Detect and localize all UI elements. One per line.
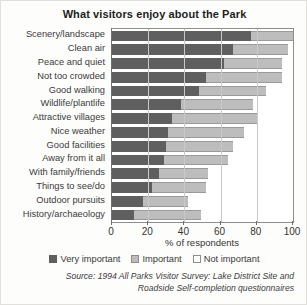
bar-segment-very bbox=[112, 99, 181, 110]
bar-segment-very bbox=[112, 86, 199, 97]
category-label: Things to see/do bbox=[36, 181, 105, 191]
source-line-2: Roadside Self-completion questionnaires bbox=[1, 282, 294, 294]
bar-row bbox=[112, 182, 293, 193]
bar-segment-not bbox=[244, 127, 293, 138]
y-axis-category-labels: Scenery/landscapeClean airPeace and quie… bbox=[1, 28, 108, 221]
chart-figure: What visitors enjoy about the Park Scene… bbox=[0, 0, 307, 305]
plot-area bbox=[111, 28, 294, 223]
legend-item[interactable]: Important bbox=[131, 254, 181, 264]
bar-segment-imp bbox=[164, 155, 227, 166]
bar-row bbox=[112, 86, 293, 97]
gridline bbox=[184, 29, 185, 222]
bar-row bbox=[112, 155, 293, 166]
bar-segment-imp bbox=[143, 196, 188, 207]
source-line-1: Source: 1994 All Parks Visitor Survey: L… bbox=[1, 270, 294, 282]
legend-label: Very important bbox=[60, 254, 120, 264]
bar-segment-not bbox=[257, 113, 293, 124]
x-axis-label: % of respondents bbox=[111, 237, 293, 248]
bar-row bbox=[112, 127, 293, 138]
bar-segment-very bbox=[112, 31, 251, 42]
category-label: Wildlife/plantlife bbox=[40, 98, 105, 108]
bar-row bbox=[112, 58, 293, 69]
category-label: Clean air bbox=[68, 43, 105, 53]
legend-item[interactable]: Very important bbox=[49, 254, 120, 264]
bar-row bbox=[112, 99, 293, 110]
bar-segment-very bbox=[112, 58, 224, 69]
bar-segment-imp bbox=[181, 99, 253, 110]
bar-segment-very bbox=[112, 44, 233, 55]
bar-segment-very bbox=[112, 210, 134, 221]
bar-segment-not bbox=[201, 210, 293, 221]
bar-segment-imp bbox=[166, 141, 233, 152]
bar-segment-very bbox=[112, 127, 168, 138]
category-label: Nice weather bbox=[51, 126, 105, 136]
bar-segment-not bbox=[282, 72, 293, 83]
bar-segment-not bbox=[206, 182, 293, 193]
category-label: Not too crowded bbox=[37, 71, 105, 81]
bar-segment-not bbox=[253, 99, 293, 110]
x-tick-label: 100 bbox=[284, 226, 301, 237]
legend-label: Not important bbox=[204, 254, 260, 264]
x-tick-mark bbox=[111, 221, 112, 225]
x-tick-label: 0 bbox=[108, 226, 114, 237]
gridline bbox=[257, 29, 258, 222]
legend-swatch-icon bbox=[49, 255, 57, 263]
bar-segment-very bbox=[112, 113, 172, 124]
chart-title: What visitors enjoy about the Park bbox=[1, 8, 307, 20]
category-label: Scenery/landscape bbox=[26, 29, 105, 39]
x-tick-label: 80 bbox=[250, 226, 261, 237]
bar-segment-imp bbox=[224, 58, 282, 69]
category-label: Attractive villages bbox=[33, 112, 105, 122]
bar-segment-very bbox=[112, 155, 164, 166]
source-note: Source: 1994 All Parks Visitor Survey: L… bbox=[1, 270, 301, 294]
bar-row bbox=[112, 113, 293, 124]
category-label: Good walking bbox=[49, 85, 105, 95]
category-label: Peace and quiet bbox=[38, 57, 105, 67]
bar-segment-not bbox=[188, 196, 293, 207]
category-label: Away from it all bbox=[42, 153, 105, 163]
x-tick-mark bbox=[220, 221, 221, 225]
bar-row bbox=[112, 31, 293, 42]
x-tick-mark bbox=[256, 221, 257, 225]
bar-segment-not bbox=[233, 141, 293, 152]
bar-segment-very bbox=[112, 72, 206, 83]
bar-segment-imp bbox=[134, 210, 201, 221]
bar-segment-very bbox=[112, 168, 159, 179]
legend-label: Important bbox=[142, 254, 181, 264]
x-tick-mark bbox=[292, 221, 293, 225]
bar-row bbox=[112, 141, 293, 152]
x-tick-label: 40 bbox=[178, 226, 189, 237]
legend-item[interactable]: Not important bbox=[193, 254, 260, 264]
bar-segment-not bbox=[228, 155, 293, 166]
x-tick-mark bbox=[147, 221, 148, 225]
bar-row bbox=[112, 196, 293, 207]
bar-segment-not bbox=[266, 86, 293, 97]
x-tick-mark bbox=[183, 221, 184, 225]
category-label: History/archaeology bbox=[23, 209, 105, 219]
bar-row bbox=[112, 72, 293, 83]
legend-swatch-icon bbox=[193, 255, 201, 263]
bar-segment-very bbox=[112, 182, 152, 193]
bar-segment-imp bbox=[233, 44, 287, 55]
chart-legend: Very importantImportantNot important bbox=[1, 254, 307, 264]
bar-segment-imp bbox=[152, 182, 206, 193]
bar-segment-very bbox=[112, 196, 143, 207]
category-label: Good facilities bbox=[47, 140, 105, 150]
bar-segment-not bbox=[282, 58, 293, 69]
x-tick-label: 60 bbox=[214, 226, 225, 237]
bar-segment-not bbox=[288, 44, 293, 55]
bar-row bbox=[112, 44, 293, 55]
x-tick-label: 20 bbox=[142, 226, 153, 237]
bar-row bbox=[112, 210, 293, 221]
gridline bbox=[148, 29, 149, 222]
category-label: With family/friends bbox=[29, 167, 105, 177]
bar-segment-imp bbox=[168, 127, 244, 138]
legend-swatch-icon bbox=[131, 255, 139, 263]
category-label: Outdoor pursuits bbox=[36, 195, 105, 205]
bar-segment-imp bbox=[206, 72, 282, 83]
bar-segment-very bbox=[112, 141, 166, 152]
bar-segment-imp bbox=[199, 86, 266, 97]
bar-row bbox=[112, 168, 293, 179]
gridline bbox=[221, 29, 222, 222]
